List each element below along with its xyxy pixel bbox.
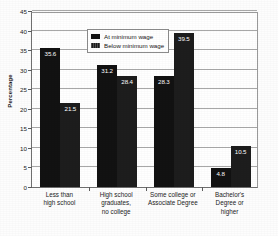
bar[interactable]: 4.8 [211,168,231,187]
y-axis-tick-label: 5 [24,164,27,171]
bar-value-label: 4.8 [211,170,231,178]
y-axis-tick-label: 35 [20,47,27,54]
y-axis-tick [28,11,32,12]
bar[interactable]: 39.5 [174,33,194,187]
bar[interactable]: 35.6 [40,48,60,187]
bar-chart-figure: Percentage 051015202530354045 35.621.531… [0,0,278,236]
bar-value-label: 28.4 [117,78,137,86]
y-axis-tick [28,31,32,32]
x-axis-category-label-line: higher [195,208,264,216]
y-axis-tick-label: 45 [20,8,27,15]
y-axis-tick [28,50,32,51]
y-axis-title: Percentage [7,55,13,127]
legend-swatch-below-minimum-wage [91,43,100,48]
legend-swatch-at-minimum-wage [91,34,100,39]
bar-value-label: 31.2 [97,67,117,75]
y-axis-tick-label: 25 [20,86,27,93]
x-axis-category-label-line: Bachelor's [195,191,264,199]
gridline [32,69,257,70]
bar[interactable]: 10.5 [231,146,251,187]
y-axis-tick [28,187,32,188]
legend-label-at-minimum-wage: At minimum wage [104,33,153,40]
bar[interactable]: 31.2 [97,65,117,187]
y-axis-tick [28,109,32,110]
x-axis-category-label: Bachelor'sDegree orhigher [195,191,264,216]
legend-label-below-minimum-wage: Below minimum wage [104,42,164,49]
chart-legend: At minimum wage Below minimum wage [87,29,169,53]
bar[interactable]: 21.5 [60,103,80,187]
y-axis-tick [28,128,32,129]
y-axis-tick [28,89,32,90]
y-axis-tick-label: 20 [20,105,27,112]
x-axis-labels: Less thanhigh schoolHigh schoolgraduates… [31,191,258,233]
y-axis-tick [28,148,32,149]
legend-item-below-minimum-wage[interactable]: Below minimum wage [91,41,164,50]
gridline [32,10,257,11]
x-axis-category-label-line: no college [82,208,151,216]
bar-value-label: 28.3 [154,78,174,86]
y-axis-tick-label: 40 [20,27,27,34]
y-axis-tick-label: 0 [24,184,27,191]
legend-item-at-minimum-wage[interactable]: At minimum wage [91,32,164,41]
bar-value-label: 35.6 [40,50,60,58]
bar[interactable]: 28.4 [117,76,137,187]
y-axis-tick-label: 10 [20,144,27,151]
y-axis-tick [28,167,32,168]
plot-area: 051015202530354045 35.621.531.228.428.33… [31,12,258,188]
bar[interactable]: 28.3 [154,76,174,187]
y-axis-tick-label: 30 [20,66,27,73]
y-axis-tick [28,70,32,71]
gridline [32,88,257,89]
y-axis-tick-label: 15 [20,125,27,132]
bar-value-label: 21.5 [60,105,80,113]
bar-value-label: 39.5 [174,35,194,43]
bar-value-label: 10.5 [231,148,251,156]
x-axis-category-label-line: Degree or [195,199,264,207]
